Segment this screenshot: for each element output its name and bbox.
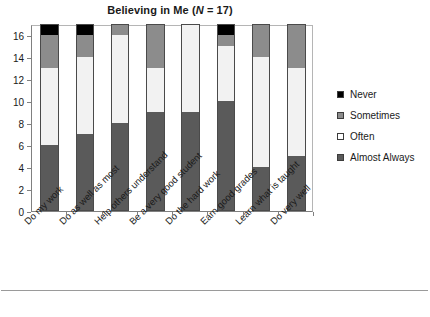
bar-stack <box>40 24 58 211</box>
legend-swatch-icon <box>337 112 344 119</box>
bar-segment-often[interactable] <box>181 24 199 112</box>
y-tick-label: 16 <box>0 31 24 42</box>
bar-segment-sometimes[interactable] <box>76 35 94 57</box>
y-tick-label: 4 <box>0 163 24 174</box>
legend-item[interactable]: Never <box>337 84 429 105</box>
bar-segment-never[interactable] <box>217 24 235 35</box>
x-tick-mark <box>102 212 103 216</box>
y-tick-label: 0 <box>0 207 24 218</box>
bar-segment-sometimes[interactable] <box>287 24 305 68</box>
legend-item[interactable]: Often <box>337 126 429 147</box>
legend-label: Sometimes <box>350 110 400 121</box>
legend-swatch-icon <box>337 133 344 140</box>
bar-segment-never[interactable] <box>76 24 94 35</box>
bar-segment-sometimes[interactable] <box>146 24 164 68</box>
chart-title-n-symbol: N <box>196 4 204 16</box>
y-tick-label: 10 <box>0 97 24 108</box>
legend-label: Almost Always <box>350 152 414 163</box>
y-tick-label: 2 <box>0 185 24 196</box>
bar-segment-sometimes[interactable] <box>40 35 58 68</box>
legend-item[interactable]: Sometimes <box>337 105 429 126</box>
bar-segment-sometimes[interactable] <box>252 24 270 57</box>
bar-segment-sometimes[interactable] <box>111 24 129 35</box>
figure-canvas: Believing in Me (N = 17) 0246810121416 D… <box>0 0 430 317</box>
bar-segment-often[interactable] <box>111 35 129 123</box>
y-tick-label: 12 <box>0 75 24 86</box>
y-tick-label: 6 <box>0 141 24 152</box>
bar-segment-never[interactable] <box>40 24 58 35</box>
bar-segment-often[interactable] <box>287 68 305 156</box>
bar-segment-sometimes[interactable] <box>217 35 235 46</box>
chart-legend: NeverSometimesOftenAlmost Always <box>337 84 429 168</box>
bar-segment-often[interactable] <box>252 57 270 167</box>
bar-segment-often[interactable] <box>40 68 58 145</box>
legend-swatch-icon <box>337 154 344 161</box>
x-tick-mark <box>278 212 279 216</box>
y-tick-label: 14 <box>0 53 24 64</box>
x-tick-mark <box>66 212 67 216</box>
chart-title: Believing in Me (N = 17) <box>0 4 340 16</box>
bar-segment-often[interactable] <box>76 57 94 134</box>
x-tick-mark <box>207 212 208 216</box>
x-tick-mark <box>313 212 314 216</box>
bar-segment-often[interactable] <box>217 46 235 101</box>
legend-swatch-icon <box>337 91 344 98</box>
legend-label: Never <box>350 89 377 100</box>
legend-item[interactable]: Almost Always <box>337 147 429 168</box>
chart-title-main: Believing in Me ( <box>107 4 196 16</box>
legend-label: Often <box>350 131 374 142</box>
bar-segment-often[interactable] <box>146 68 164 112</box>
x-tick-mark <box>137 212 138 216</box>
bar-stack <box>181 24 199 211</box>
x-tick-mark <box>172 212 173 216</box>
y-tick-label: 8 <box>0 119 24 130</box>
chart-title-tail: = 17) <box>204 4 233 16</box>
x-tick-mark <box>243 212 244 216</box>
